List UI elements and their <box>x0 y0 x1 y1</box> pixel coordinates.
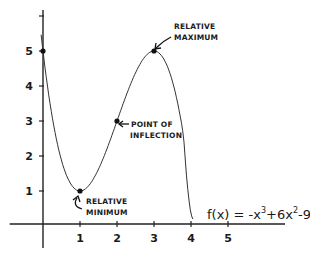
formula-prefix: f(x) = -x <box>207 207 261 222</box>
relative-minimum-annotation: RELATIVE MINIMUM <box>73 196 128 217</box>
x-tick-label: 1 <box>76 232 84 245</box>
point-of-inflection-point <box>114 118 119 123</box>
y-tick-label: 5 <box>25 45 33 58</box>
relative-maximum-label-line2: MAXIMUM <box>174 33 218 42</box>
x-tick-label: 3 <box>150 232 158 245</box>
y-ticks: 12345 <box>25 16 44 198</box>
inflection-label-line1: POINT OF <box>131 120 173 129</box>
inflection-label-line2: INFLECTION <box>130 131 182 140</box>
point-of-inflection-annotation: POINT OF INFLECTION <box>119 120 182 140</box>
x-tick-label: 5 <box>224 232 232 245</box>
relative-maximum-label-line1: RELATIVE <box>174 22 215 31</box>
y-tick-label: 4 <box>25 80 33 93</box>
y-tick-label: 1 <box>25 185 33 198</box>
relative-minimum-point <box>77 188 82 193</box>
relative-minimum-label-line1: RELATIVE <box>86 197 127 206</box>
x-tick-label: 2 <box>113 232 121 245</box>
y-tick-label: 3 <box>25 115 33 128</box>
function-formula: f(x) = -x3+6x2-9x+5 <box>207 206 310 222</box>
relative-maximum-arrow-icon <box>156 37 171 48</box>
formula-suffix: -9x+5 <box>298 207 310 222</box>
y-intercept-point <box>40 48 45 53</box>
relative-minimum-label-line2: MINIMUM <box>86 208 128 217</box>
chart: 12345 12345 RELATIVE MAXIMUM POINT OF IN… <box>0 0 310 263</box>
y-tick-label: 2 <box>25 150 33 163</box>
relative-maximum-annotation: RELATIVE MAXIMUM <box>155 22 218 49</box>
x-tick-label: 4 <box>187 232 195 245</box>
formula-mid: +6x <box>266 207 293 222</box>
